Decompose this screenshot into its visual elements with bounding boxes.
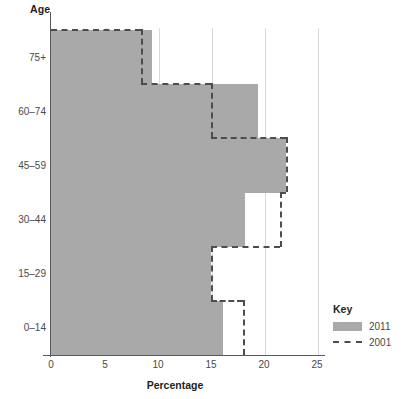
- x-tick-25: 25: [302, 359, 332, 370]
- dash-2001-0-14-right: [243, 300, 245, 355]
- x-tick-20: 20: [249, 359, 279, 370]
- x-tick-5: 5: [90, 359, 120, 370]
- x-tick-10: 10: [143, 359, 173, 370]
- dash-2001-30-44-right: [280, 192, 282, 247]
- y-axis-title: Age: [30, 3, 50, 15]
- y-tick-30-44: 30–44: [2, 214, 46, 225]
- dash-2001-75plus-top: [51, 29, 141, 31]
- bar-2011-30-44: [51, 193, 245, 247]
- legend: Key 2011 2001: [333, 303, 411, 351]
- plot-area: [51, 28, 318, 355]
- legend-swatch-filled-icon: [333, 322, 362, 331]
- legend-item-2011: 2011: [333, 319, 411, 333]
- gridline-25: [318, 28, 319, 355]
- legend-swatch-dashed-icon: [333, 341, 362, 343]
- y-tick-60-74: 60–74: [2, 106, 46, 117]
- bar-2011-0-14: [51, 301, 223, 355]
- legend-item-2001: 2001: [333, 335, 411, 349]
- bar-2011-60-74: [51, 84, 258, 138]
- y-tick-15-29: 15–29: [2, 268, 46, 279]
- legend-title: Key: [333, 303, 411, 315]
- x-axis-line: [43, 355, 325, 356]
- y-tick-0-14: 0–14: [2, 322, 46, 333]
- dash-2001-60-74-top: [141, 83, 211, 85]
- dash-2001-15-29-top: [211, 246, 280, 248]
- x-axis-title: Percentage: [110, 379, 240, 391]
- dash-2001-0-14-top: [211, 300, 243, 302]
- x-tick-0: 0: [36, 359, 66, 370]
- dash-2001-15-29-right: [280, 246, 282, 247]
- dash-2001-60-74-right: [211, 83, 213, 138]
- legend-label-2011: 2011: [369, 321, 391, 332]
- y-tick-45-59: 45–59: [2, 160, 46, 171]
- legend-label-2001: 2001: [369, 337, 391, 348]
- y-tick-75plus: 75+: [2, 52, 46, 63]
- age-percentage-chart: Age 0 5 10 1: [0, 0, 413, 399]
- bar-2011-75plus: [51, 30, 152, 84]
- bar-2011-45-59: [51, 138, 286, 192]
- dash-2001-75plus-right: [141, 29, 143, 84]
- bar-2011-15-29: [51, 247, 211, 301]
- dash-2001-45-59-right: [286, 137, 288, 192]
- dash-2001-15-29-left: [211, 246, 213, 301]
- dash-2001-45-59-top: [211, 137, 286, 139]
- x-tick-15: 15: [196, 359, 226, 370]
